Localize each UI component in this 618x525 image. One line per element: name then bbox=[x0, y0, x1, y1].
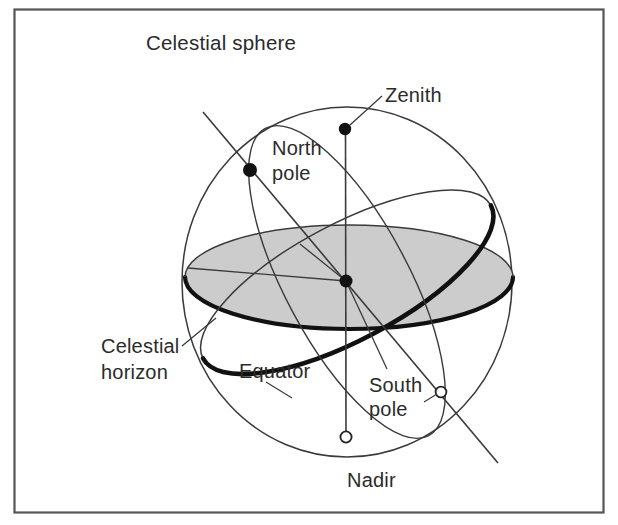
celestial-sphere-figure: Celestial sphere Zenith North pole Celes… bbox=[0, 0, 618, 525]
zenith-label: Zenith bbox=[385, 84, 442, 106]
celestial-horizon-label-line2: horizon bbox=[101, 361, 168, 383]
north-pole-label-line1: North bbox=[272, 137, 322, 159]
south-pole-leader-line bbox=[424, 394, 437, 402]
south-pole-point bbox=[436, 387, 447, 398]
north-pole-point bbox=[243, 163, 257, 177]
celestial-horizon-label-line1: Celestial bbox=[101, 335, 180, 357]
equator-label: Equator bbox=[239, 360, 311, 382]
nadir-label: Nadir bbox=[347, 469, 396, 491]
observer-center-point bbox=[340, 275, 353, 288]
figure-title: Celestial sphere bbox=[146, 31, 296, 54]
nadir-point bbox=[340, 431, 351, 442]
south-pole-label-line2: pole bbox=[369, 398, 408, 420]
south-pole-label-line1: South bbox=[369, 374, 422, 396]
zenith-point bbox=[339, 123, 351, 135]
north-pole-label-line2: pole bbox=[272, 162, 311, 184]
equator-leader-line bbox=[266, 382, 292, 398]
celestial-sphere-diagram: Celestial sphere Zenith North pole Celes… bbox=[0, 0, 618, 525]
